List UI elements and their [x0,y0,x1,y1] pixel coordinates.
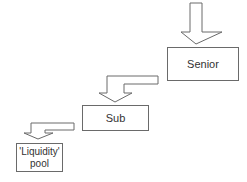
arrow-senior-to-sub [99,76,158,102]
senior-label: Senior [187,58,219,70]
liquidity-pool-box: 'Liquidity' pool [16,143,63,172]
sub-label: Sub [106,112,126,124]
pool-label-line1: 'Liquidity' [19,146,60,158]
arrow-sub-to-pool [24,123,74,139]
senior-tranche-box: Senior [167,47,239,81]
sub-tranche-box: Sub [82,105,149,131]
arrow-into-senior [181,3,222,44]
pool-label-line2: pool [30,158,49,170]
